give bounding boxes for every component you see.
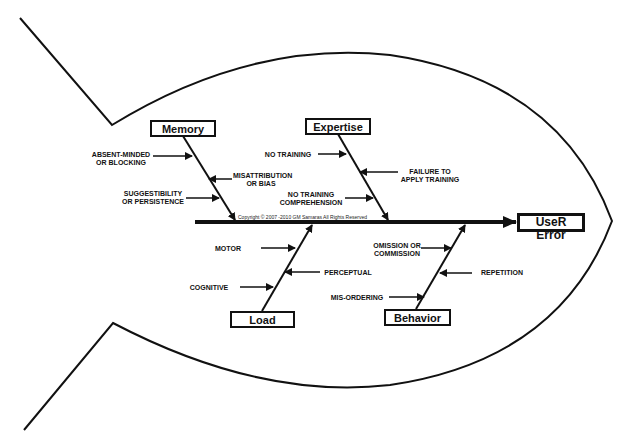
cause-absent-minded: ABSENT-MINDED OR BLOCKING (88, 151, 154, 167)
cause-perceptual: PERCEPTUAL (322, 269, 374, 277)
cause-suggestibility: SUGGESTIBILITY OR PERSISTENCE (120, 190, 186, 206)
expertise-bone (338, 134, 388, 220)
cause-repetition: REPETITION (478, 269, 526, 277)
effect-user-error: UseR Error (517, 213, 585, 232)
cause-cognitive: COGNITIVE (186, 284, 232, 292)
memory-bone (183, 136, 235, 220)
cause-misattribution: MISATTRIBUTION OR BIAS (233, 172, 289, 188)
category-expertise: Expertise (305, 118, 371, 135)
cause-mis-ordering: MIS-ORDERING (327, 294, 387, 302)
cause-no-training-comprehension: NO TRAINING COMPREHENSION (278, 191, 344, 207)
cause-no-training: NO TRAINING (260, 151, 316, 159)
copyright-notice: Copyright © 2007 -2010 GM Samaras All Ri… (238, 214, 367, 220)
load-bone (262, 225, 312, 311)
category-behavior: Behavior (384, 309, 451, 326)
cause-failure-to-apply: FAILURE TO APPLY TRAINING (398, 168, 462, 184)
cause-motor: MOTOR (208, 245, 248, 253)
category-memory: Memory (150, 120, 216, 137)
category-load: Load (230, 311, 295, 328)
cause-omission-commission: OMISSION OR COMMISSION (372, 242, 422, 258)
